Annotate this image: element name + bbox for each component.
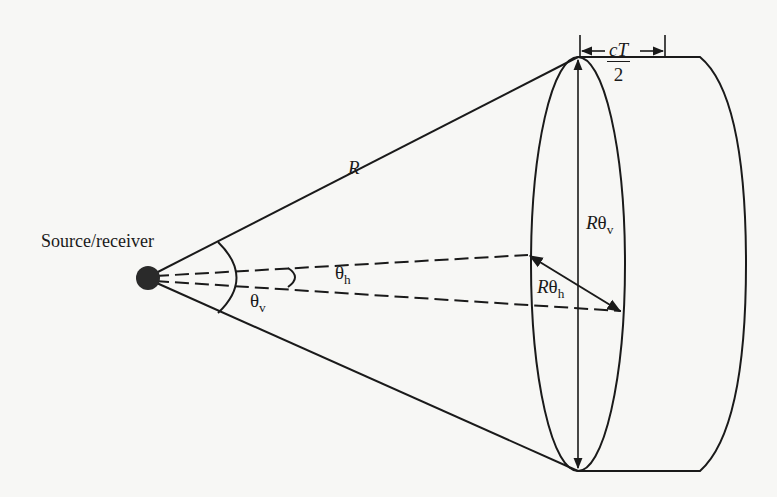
- theta-h-symbol: θ: [335, 262, 344, 283]
- r-theta-v-subscript: v: [607, 222, 614, 237]
- theta-v-symbol: θ: [250, 290, 259, 311]
- theta-h-label: θh: [335, 263, 351, 286]
- r-theta-h-subscript: h: [558, 286, 565, 301]
- beam-edge-bottom: [150, 280, 578, 471]
- theta-h-subscript: h: [344, 272, 351, 287]
- theta-v-subscript: v: [259, 300, 266, 315]
- theta-v-arc: [218, 242, 237, 313]
- depth-label-fraction: cT 2: [607, 40, 630, 84]
- depth-denominator: 2: [614, 62, 624, 84]
- r-theta-h-symbol: θ: [549, 276, 558, 297]
- r-theta-v-symbol: θ: [598, 212, 607, 233]
- depth-numerator: cT: [607, 40, 630, 62]
- theta-v-label: θv: [250, 291, 266, 314]
- theta-h-arc: [288, 268, 295, 287]
- cylinder-back-outline: [578, 57, 746, 471]
- source-receiver-dot: [136, 266, 160, 290]
- r-theta-h-prefix: R: [537, 276, 549, 297]
- range-label: R: [348, 158, 360, 177]
- r-theta-v-prefix: R: [586, 212, 598, 233]
- r-theta-h-label: Rθh: [537, 277, 564, 300]
- beam-edge-top: [150, 57, 578, 276]
- source-receiver-label: Source/receiver: [41, 232, 154, 250]
- r-theta-v-label: Rθv: [586, 213, 613, 236]
